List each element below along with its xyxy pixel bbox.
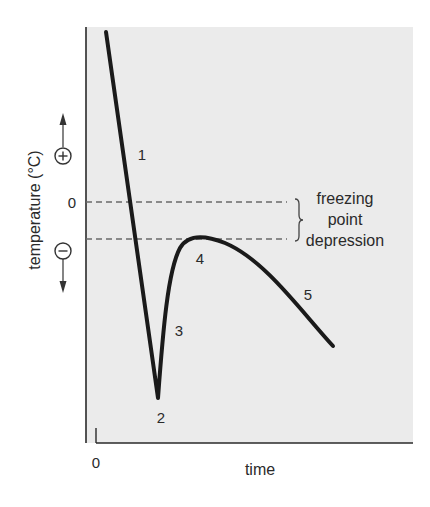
- y-zero-label: 0: [68, 194, 76, 211]
- x-origin-label: 0: [92, 454, 100, 471]
- segment-label-2: 2: [157, 409, 165, 426]
- positive-direction-indicator: [55, 113, 71, 164]
- x-axis-label: time: [245, 461, 275, 478]
- negative-direction-indicator: [55, 243, 71, 293]
- segment-label-5: 5: [304, 286, 312, 303]
- arrow-down-icon: [60, 281, 67, 293]
- annotation-line-1: freezing: [317, 190, 374, 207]
- annotation-line-3: depression: [306, 232, 384, 249]
- segment-label-3: 3: [175, 322, 183, 339]
- y-axis-label: temperature (°C): [26, 150, 43, 269]
- segment-label-4: 4: [196, 250, 204, 267]
- arrow-up-icon: [60, 113, 67, 125]
- cooling-curve-diagram: 1 2 3 4 5 freezing point depression 0 0 …: [0, 0, 430, 507]
- segment-label-1: 1: [138, 146, 146, 163]
- annotation-line-2: point: [328, 211, 363, 228]
